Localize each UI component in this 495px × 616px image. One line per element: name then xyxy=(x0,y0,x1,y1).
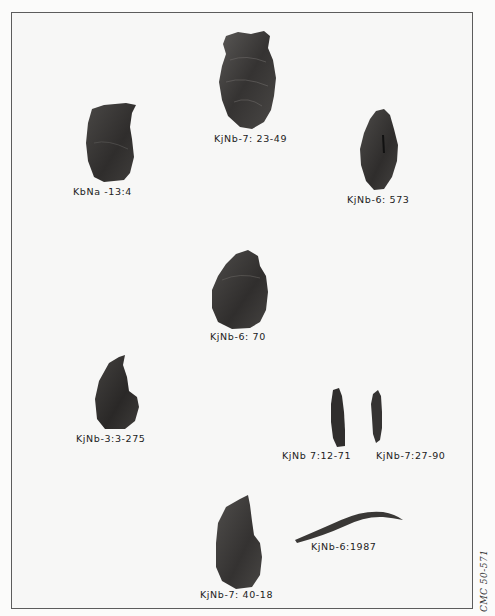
artifact-label: KjNb-7:27-90 xyxy=(376,450,445,461)
catalog-credit: CMC 50-571 xyxy=(479,549,489,612)
artifact-label: KjNb-7: 40-18 xyxy=(200,589,273,600)
artifact-label: KbNa -13:4 xyxy=(73,186,132,197)
artifact-image-kjnb-3-3-275 xyxy=(95,355,143,430)
artifact-label: KjNb-7: 23-49 xyxy=(214,133,287,144)
artifact-image-kjnb-7-40-18 xyxy=(214,495,266,590)
artifact-image-kjnb-7-27-90 xyxy=(370,390,384,444)
artifact-image-kjnb-6-1987 xyxy=(293,508,405,544)
artifact-image-kjnb-6-573 xyxy=(358,109,400,191)
artifact-image-kjnb-7-12-71 xyxy=(329,388,347,448)
artifact-label: KjNb 7:12-71 xyxy=(282,450,351,461)
artifact-label: KjNb-6: 70 xyxy=(210,331,266,342)
artifact-image-kjnb-6-70 xyxy=(210,250,270,330)
artifact-label: KjNb-3:3-275 xyxy=(76,433,145,444)
artifact-label: KjNb-6:1987 xyxy=(311,541,376,552)
artifact-image-kjnb-7-23-49 xyxy=(216,30,278,130)
artifact-image-kbna-13-4 xyxy=(84,103,139,183)
artifact-label: KjNb-6: 573 xyxy=(347,194,409,205)
